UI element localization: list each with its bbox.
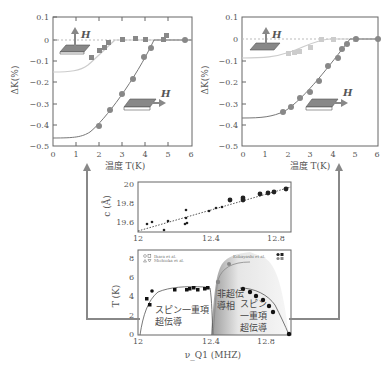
svg-text:−0.1: −0.1 xyxy=(30,57,49,66)
svg-text:−0.5: −0.5 xyxy=(219,142,238,151)
left-arrow-icon xyxy=(83,163,91,171)
svg-text:0: 0 xyxy=(44,36,49,45)
left-circle-markers xyxy=(96,37,188,129)
svg-text:6: 6 xyxy=(188,150,193,159)
sc-dome-1-markers xyxy=(145,286,210,307)
svg-text:0.1: 0.1 xyxy=(36,13,49,22)
svg-text:H: H xyxy=(342,87,353,98)
svg-text:−0.4: −0.4 xyxy=(30,121,49,130)
svg-text:4: 4 xyxy=(142,150,147,159)
svg-text:スピン一重項: スピン一重項 xyxy=(155,304,209,315)
middle-top-panel: 20 19.8 19.6 12 12.4 12.8 c (Å) xyxy=(101,180,291,243)
svg-text:20: 20 xyxy=(124,180,134,189)
svg-text:0.1: 0.1 xyxy=(225,13,238,22)
svg-text:2: 2 xyxy=(96,150,101,159)
svg-text:一重項: 一重項 xyxy=(240,310,267,321)
svg-text:H: H xyxy=(80,29,91,40)
left-plot-frame xyxy=(53,17,192,146)
svg-text:0: 0 xyxy=(50,150,55,159)
t-axis-label: T (K) xyxy=(111,285,121,308)
svg-text:−0.2: −0.2 xyxy=(30,78,49,87)
svg-text:超伝導: 超伝導 xyxy=(155,316,182,327)
svg-text:0: 0 xyxy=(233,35,238,44)
svg-text:−0.2: −0.2 xyxy=(219,78,238,87)
h-inplane-icon: H xyxy=(124,88,171,110)
svg-text:3: 3 xyxy=(119,150,124,159)
svg-text:12: 12 xyxy=(133,337,143,346)
right-connector xyxy=(289,163,343,319)
svg-text:−0.4: −0.4 xyxy=(219,121,238,130)
left-fit-inplane xyxy=(53,40,192,138)
svg-text:導相: 導相 xyxy=(217,300,235,311)
svg-text:−0.3: −0.3 xyxy=(219,100,238,109)
right-arrow-icon xyxy=(335,163,343,171)
svg-text:超伝導: 超伝導 xyxy=(240,322,267,333)
svg-text:4: 4 xyxy=(129,292,134,301)
svg-text:8: 8 xyxy=(129,254,134,263)
left-x-axis-label: 温度 T(K) xyxy=(105,160,146,171)
right-y-axis-label: ΔK(%) xyxy=(200,66,210,95)
svg-text:0: 0 xyxy=(240,150,245,159)
right-x-ticks: 0 1 2 3 4 5 6 xyxy=(240,150,379,159)
svg-text:−0.1: −0.1 xyxy=(219,57,238,66)
svg-text:12.4: 12.4 xyxy=(202,337,220,346)
left-square-markers xyxy=(89,33,169,60)
svg-text:−0.3: −0.3 xyxy=(30,100,49,109)
svg-text:12.4: 12.4 xyxy=(202,234,220,243)
svg-text:H: H xyxy=(160,88,171,99)
legend-michioka: Michioka et al. xyxy=(154,258,184,263)
svg-text:12.8: 12.8 xyxy=(257,337,275,346)
right-h-inplane-icon: H xyxy=(306,87,353,110)
middle-top-frame xyxy=(138,182,291,232)
region-label-sc1: スピン一重項 超伝導 xyxy=(155,304,209,327)
left-y-axis-label: ΔK(%) xyxy=(10,66,20,95)
svg-text:1: 1 xyxy=(73,150,78,159)
c-data-points xyxy=(146,187,289,232)
legend-kobayashi: Kobayashi et al. xyxy=(233,254,265,259)
legend-left: Ihara et al. Michioka et al. xyxy=(144,254,185,264)
svg-text:H: H xyxy=(271,29,282,40)
c-axis-label: c (Å) xyxy=(101,195,112,216)
figure-canvas: 0.1 0 −0.1 −0.2 −0.3 −0.4 −0.5 0 1 2 3 4… xyxy=(0,0,387,368)
svg-text:スピン: スピン xyxy=(240,299,267,309)
left-panel: 0.1 0 −0.1 −0.2 −0.3 −0.4 −0.5 0 1 2 3 4… xyxy=(10,13,194,171)
svg-text:5: 5 xyxy=(352,150,357,159)
middle-bottom-panel: 8 6 4 2 0 12 12.4 12.8 T (K) ν_Q1 (MHZ) … xyxy=(111,250,291,361)
svg-text:12.8: 12.8 xyxy=(267,234,285,243)
svg-text:5: 5 xyxy=(165,150,170,159)
right-plot-frame xyxy=(242,17,378,146)
svg-text:2: 2 xyxy=(285,150,290,159)
right-panel: 0.1 0 −0.1 −0.2 −0.3 −0.4 −0.5 0 1 2 3 4… xyxy=(200,13,381,171)
nu-axis-label: ν_Q1 (MHZ) xyxy=(185,350,241,361)
svg-text:4: 4 xyxy=(330,150,335,159)
svg-text:−0.5: −0.5 xyxy=(30,142,49,151)
svg-text:3: 3 xyxy=(307,150,312,159)
svg-text:6: 6 xyxy=(129,273,134,282)
svg-text:12: 12 xyxy=(133,234,143,243)
svg-text:6: 6 xyxy=(374,150,379,159)
svg-text:19.8: 19.8 xyxy=(116,199,134,208)
region-label-sc2: スピン 一重項 超伝導 xyxy=(240,299,267,333)
right-x-axis-label: 温度 T(K) xyxy=(290,160,331,171)
svg-text:非超伝: 非超伝 xyxy=(217,288,244,299)
svg-text:19.6: 19.6 xyxy=(116,218,134,227)
svg-text:1: 1 xyxy=(262,150,267,159)
